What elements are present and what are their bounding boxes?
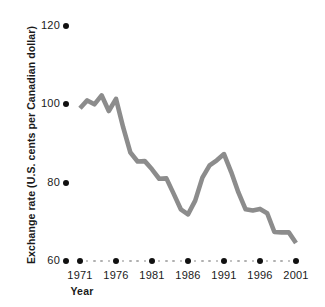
- exchange-rate-line: [80, 95, 296, 243]
- x-axis-major-dot: [221, 258, 227, 264]
- x-axis-major-dot: [185, 258, 191, 264]
- x-axis-major-dot: [77, 258, 83, 264]
- x-axis-major-dot: [149, 258, 155, 264]
- x-axis-major-dot: [293, 258, 299, 264]
- x-axis-tick-label-1991: 1991: [204, 269, 244, 281]
- x-axis-tick-label-1986: 1986: [168, 269, 208, 281]
- x-axis-tick-label-1996: 1996: [240, 269, 280, 281]
- x-axis-title: Year: [62, 285, 102, 297]
- x-axis-tick-label-1976: 1976: [96, 269, 136, 281]
- x-axis-tick-label-1971: 1971: [60, 269, 100, 281]
- x-axis-tick-label-1981: 1981: [132, 269, 172, 281]
- series-plot-area: [0, 0, 325, 307]
- x-axis-major-dot: [257, 258, 263, 264]
- x-axis-major-dot: [113, 258, 119, 264]
- x-axis-tick-label-2001: 2001: [276, 269, 316, 281]
- line-chart: Exchange rate (U.S. cents per Canadian d…: [0, 0, 325, 307]
